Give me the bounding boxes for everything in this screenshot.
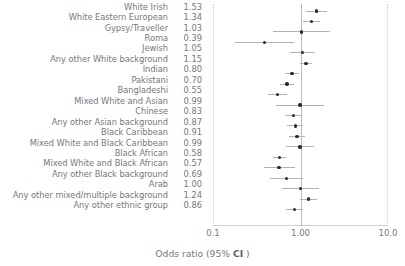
point-estimate-marker (298, 103, 301, 106)
plot-panel (213, 4, 388, 226)
x-axis-title-suffix: ) (243, 248, 250, 259)
row-odds-ratio-value: 1.34 (174, 12, 205, 22)
point-estimate-marker (304, 62, 307, 65)
table-row: Mixed White and Black African0.57 (0, 158, 205, 168)
row-odds-ratio-value: 0.87 (174, 117, 205, 127)
forest-plot-figure: White Irish1.53White Eastern European1.3… (0, 0, 405, 266)
table-row: White Irish1.53 (0, 2, 205, 12)
table-row: Any other White background1.15 (0, 54, 205, 64)
row-category-label: Black African (0, 148, 168, 158)
row-category-label: White Irish (0, 2, 168, 12)
row-category-label: Any other White background (0, 54, 168, 64)
row-odds-ratio-value: 0.99 (174, 96, 205, 106)
row-odds-ratio-value: 0.83 (174, 106, 205, 116)
x-axis-title: Odds ratio (95% CI ) (0, 248, 405, 259)
x-tick-label: 10.0 (378, 228, 397, 238)
table-row: Black African0.58 (0, 148, 205, 158)
row-category-label: Bangladeshi (0, 85, 168, 95)
row-odds-ratio-value: 0.70 (174, 75, 205, 85)
row-odds-ratio-value: 0.39 (174, 33, 205, 43)
point-estimate-marker (315, 9, 318, 12)
row-category-label: Black Caribbean (0, 127, 168, 137)
table-row: Indian0.80 (0, 64, 205, 74)
row-category-label: Jewish (0, 43, 168, 53)
row-odds-ratio-value: 1.15 (174, 54, 205, 64)
table-row: Gypsy/Traveller1.03 (0, 22, 205, 32)
table-row: Pakistani0.70 (0, 75, 205, 85)
row-category-label: Any other ethnic group (0, 200, 168, 210)
row-odds-ratio-value: 0.80 (174, 64, 205, 74)
x-axis-title-ci: CI (233, 248, 243, 259)
row-category-label: Any other Black background (0, 169, 168, 179)
table-row: Roma0.39 (0, 33, 205, 43)
table-row: White Eastern European1.34 (0, 12, 205, 22)
row-odds-ratio-value: 0.57 (174, 158, 205, 168)
point-estimate-marker (285, 177, 288, 180)
x-tick-label: 0.1 (206, 228, 220, 238)
table-row: Jewish1.05 (0, 43, 205, 53)
row-category-label: Mixed White and Black African (0, 158, 168, 168)
row-odds-ratio-value: 0.91 (174, 127, 205, 137)
row-odds-ratio-value: 0.58 (174, 148, 205, 158)
table-row: Mixed White and Asian0.99 (0, 96, 205, 106)
table-row: Bangladeshi0.55 (0, 85, 205, 95)
row-category-label: Roma (0, 33, 168, 43)
row-odds-ratio-value: 1.05 (174, 43, 205, 53)
table-row: Black Caribbean0.91 (0, 127, 205, 137)
row-category-label: Any other mixed/multiple background (0, 190, 168, 200)
point-estimate-marker (285, 82, 288, 85)
table-row: Any other mixed/multiple background1.24 (0, 190, 205, 200)
row-odds-ratio-value: 0.69 (174, 169, 205, 179)
point-estimate-marker (298, 145, 301, 148)
row-category-label: Chinese (0, 106, 168, 116)
point-estimate-marker (294, 124, 297, 127)
row-category-label: Mixed White and Asian (0, 96, 168, 106)
row-odds-ratio-value: 1.24 (174, 190, 205, 200)
row-category-label: Indian (0, 64, 168, 74)
row-odds-ratio-value: 1.53 (174, 2, 205, 12)
row-odds-ratio-value: 1.03 (174, 23, 205, 33)
row-category-label: White Eastern European (0, 12, 168, 22)
row-category-label: Gypsy/Traveller (0, 23, 168, 33)
row-category-label: Pakistani (0, 75, 168, 85)
table-row: Chinese0.83 (0, 106, 205, 116)
table-row: Arab1.00 (0, 179, 205, 189)
row-category-label: Any other Asian background (0, 117, 168, 127)
x-axis-title-prefix: Odds ratio (95% (155, 248, 233, 259)
row-odds-ratio-value: 0.99 (174, 138, 205, 148)
x-tick-label: 1.00 (291, 228, 310, 238)
row-odds-ratio-value: 0.55 (174, 85, 205, 95)
point-estimate-marker (295, 135, 298, 138)
row-category-label: Mixed White and Black Caribbean (0, 138, 168, 148)
table-row: Any other Asian background0.87 (0, 116, 205, 126)
row-category-label: Arab (0, 179, 168, 189)
table-row: Mixed White and Black Caribbean0.99 (0, 137, 205, 147)
row-odds-ratio-value: 1.00 (174, 179, 205, 189)
point-estimate-marker (300, 30, 303, 33)
table-row: Any other ethnic group0.86 (0, 200, 205, 210)
x-axis-tick-labels: 0.11.0010.0 (0, 228, 405, 240)
row-odds-ratio-value: 0.86 (174, 200, 205, 210)
table-row: Any other Black background0.69 (0, 169, 205, 179)
